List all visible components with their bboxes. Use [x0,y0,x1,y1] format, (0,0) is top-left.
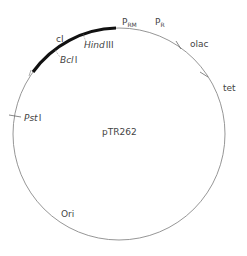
tet-label: tet [223,83,236,93]
psti-label: PstI [24,113,41,123]
prm-promoter-label: PRM [122,17,137,28]
hindiii-label: HindIII [84,40,114,50]
bcli-label: BclI [60,55,77,65]
plasmid-name: pTR262 [102,127,137,137]
pr-promoter-label: PR [155,17,165,28]
plasmid-map: cI HindIII BclI PstI PRM PR olac tet Ori… [0,0,247,256]
ori-label: Ori [61,209,74,219]
ci-label: cI [56,34,64,44]
ci-insert-arc [33,28,116,72]
olac-label: olac [190,39,209,49]
